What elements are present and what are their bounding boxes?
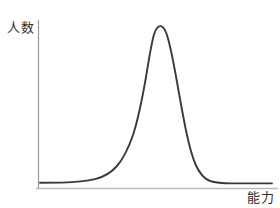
x-axis-label: 能力	[247, 191, 274, 205]
y-axis-label: 人数	[7, 21, 34, 35]
bell-curve-figure: 人数 能力	[0, 0, 280, 208]
plot-area	[0, 0, 280, 208]
distribution-curve	[40, 26, 272, 183]
